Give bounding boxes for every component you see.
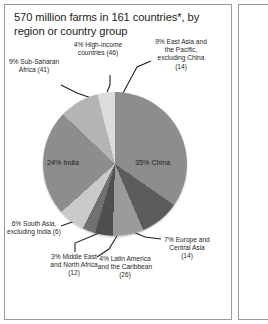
slice-label-india: 24% India: [47, 158, 79, 167]
left-chart-panel: 570 million farms in 161 countries*, by …: [4, 4, 232, 320]
right-chart-panel: 570 by i i in co 47% Upper middle income…: [238, 4, 268, 320]
slice-label-sub-saharan-africa: 9% Sub-Saharan Africa (41): [7, 58, 61, 74]
slice-label-europe-central-asia: 7% Europe and Central Asia (14): [163, 236, 211, 261]
slice-label-china: 35% China: [135, 158, 170, 167]
slice-label-south-asia: 6% South Asia, excluding India (6): [7, 220, 61, 236]
slice-label-middle-east-north-africa: 3% Middle East and North Africa (12): [49, 253, 99, 278]
slice-label-east-asia: 9% East Asia and the Pacific, excluding …: [153, 38, 209, 71]
slice-label-high-income: 4% High-income countries (46): [71, 41, 125, 57]
slice-label-latin-america: 4% Latin America and the Caribbean (26): [97, 255, 153, 280]
figure-page: 570 million farms in 161 countries*, by …: [0, 0, 268, 324]
